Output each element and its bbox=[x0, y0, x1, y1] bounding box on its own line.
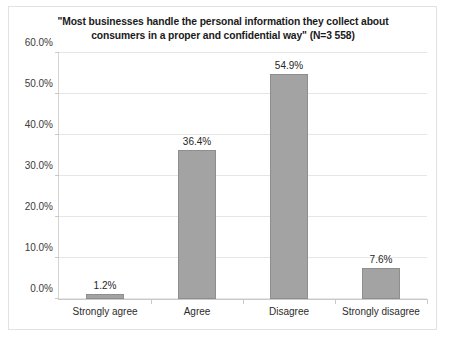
x-axis-category-label: Strongly agree bbox=[72, 306, 137, 317]
chart-title-line-2: consumers in a proper and confidential w… bbox=[35, 29, 411, 43]
x-tick-mark bbox=[151, 299, 152, 304]
y-axis-tick-label: 40.0% bbox=[25, 119, 53, 130]
chart-title: "Most businesses handle the personal inf… bbox=[35, 15, 411, 42]
x-axis-category-label: Disagree bbox=[269, 306, 309, 317]
x-axis-category-label: Strongly disagree bbox=[342, 306, 420, 317]
y-axis-tick-label: 50.0% bbox=[25, 78, 53, 89]
y-axis-tick-label: 0.0% bbox=[30, 283, 53, 294]
y-axis-tick-label: 20.0% bbox=[25, 201, 53, 212]
x-tick-mark bbox=[427, 299, 428, 304]
plot-area: 0.0%10.0%20.0%30.0%40.0%50.0%60.0% 1.2%3… bbox=[58, 53, 427, 300]
chart-frame: "Most businesses handle the personal inf… bbox=[8, 6, 437, 330]
x-tick-mark bbox=[335, 299, 336, 304]
category-band: Agree bbox=[151, 53, 243, 299]
y-axis-tick-label: 30.0% bbox=[25, 160, 53, 171]
category-band: Disagree bbox=[243, 53, 335, 299]
y-axis-tick-label: 60.0% bbox=[25, 37, 53, 48]
x-tick-mark bbox=[243, 299, 244, 304]
category-band: Strongly agree bbox=[59, 53, 151, 299]
category-band: Strongly disagree bbox=[335, 53, 427, 299]
y-axis-tick-label: 10.0% bbox=[25, 242, 53, 253]
chart-title-line-1: "Most businesses handle the personal inf… bbox=[35, 15, 411, 29]
x-axis-category-label: Agree bbox=[184, 306, 211, 317]
